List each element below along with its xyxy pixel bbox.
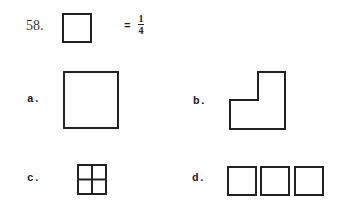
option-d-square-3 <box>294 166 324 196</box>
option-d-square-1 <box>227 166 257 196</box>
option-d-square-2 <box>260 166 290 196</box>
option-d-label: d. <box>192 172 205 184</box>
